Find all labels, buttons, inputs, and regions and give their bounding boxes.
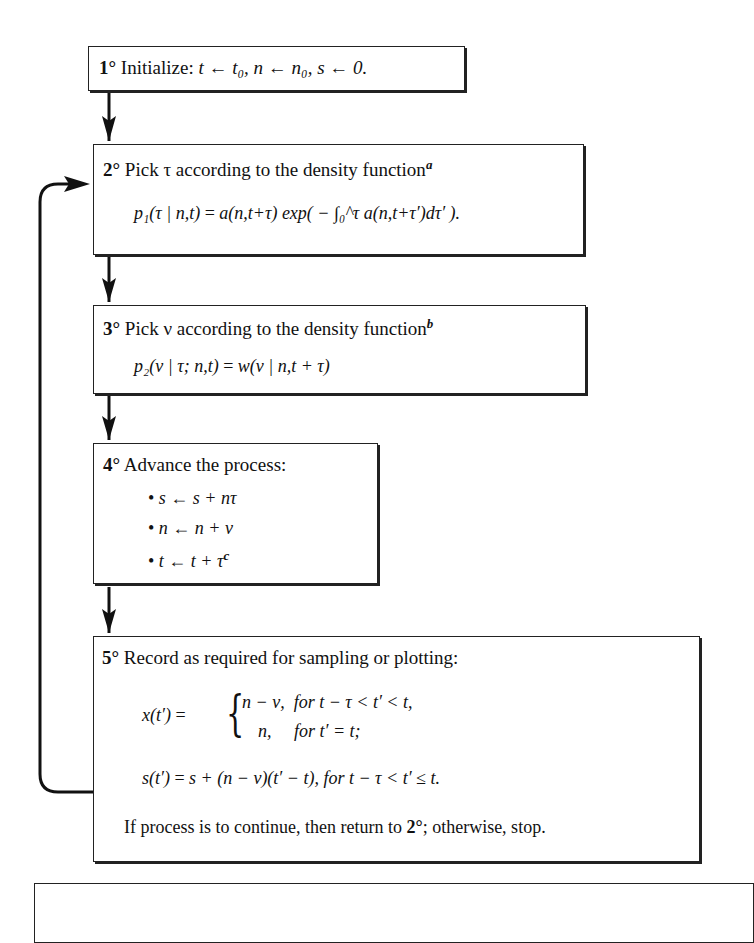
step-text: Record as required for sampling or plott… [124,647,459,668]
step-number: 5° [102,647,119,668]
footnote-marker: a [426,157,433,172]
step-text: Initialize: [121,57,194,78]
density-formula-p1: p₁(τ | n,t) = a(n,t+τ) exp( − ∫₀^τ a(n,t… [134,203,460,224]
step-2-box: 2° Pick τ according to the density funct… [93,144,584,255]
step-3-box: 3° Pick ν according to the density funct… [93,305,586,394]
return-step-ref: 2° [406,817,422,837]
s-formula: s(t′) = s + (n − ν)(t′ − t), for t − τ <… [142,768,440,789]
footnote-marker: c [223,548,229,563]
step-text: Pick τ according to the density function [125,159,426,180]
step-formula: t ← t₀, n ← n₀, s ← 0. [198,57,367,78]
bullet-update-t: • t ← t + τc [148,548,229,572]
loop-arrow-5-to-2 [40,184,93,792]
density-formula-p2: p₂(ν | τ; n,t) = w(ν | n,t + τ) [134,356,330,377]
step-number: 1° [99,57,116,78]
bullet-update-n: • n ← n + ν [148,518,233,539]
step-text: Pick ν according to the density function [125,318,427,339]
x-case-1: n − ν, for t − τ < t′ < t, [242,692,412,713]
step-1-box: 1° Initialize: t ← t₀, n ← n₀, s ← 0. [88,46,465,91]
x-case-2: n, for t′ = t; [258,721,361,742]
step-5-box: 5° Record as required for sampling or pl… [93,636,700,862]
footnotes-box [34,883,754,943]
step-number: 2° [103,159,120,180]
step-text: Advance the process: [124,454,287,475]
continue-instruction: If process is to continue, then return t… [124,817,546,838]
step-number: 3° [103,318,120,339]
x-formula-lhs: x(t′) = [142,705,186,726]
step-number: 4° [103,454,120,475]
bullet-update-s: • s ← s + nτ [148,488,236,509]
step-4-box: 4° Advance the process: • s ← s + nτ • n… [93,443,378,584]
footnote-marker: b [427,316,434,331]
